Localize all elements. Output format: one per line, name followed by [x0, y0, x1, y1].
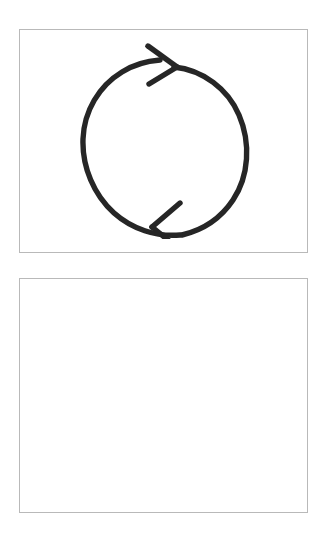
cycle-arrowhead-top-lower — [149, 67, 177, 84]
cycle-arrowhead-top-upper — [148, 46, 177, 67]
bottom-panel-inner — [20, 279, 307, 512]
cycle-arrow-container — [20, 30, 307, 252]
cycle-arc-left — [82, 60, 179, 235]
cycle-arrow-icon — [76, 43, 252, 239]
top-panel[interactable]: Hand-drawn clockwise circular arrow with… — [19, 29, 308, 253]
cycle-arrowhead-bottom-upper — [152, 203, 180, 227]
bottom-panel-content-label — [19, 278, 20, 279]
cycle-arc-right — [174, 67, 247, 235]
bottom-panel[interactable] — [19, 278, 308, 513]
page-canvas: Hand-drawn clockwise circular arrow with… — [0, 0, 329, 543]
top-panel-inner: Hand-drawn clockwise circular arrow with… — [20, 30, 307, 252]
